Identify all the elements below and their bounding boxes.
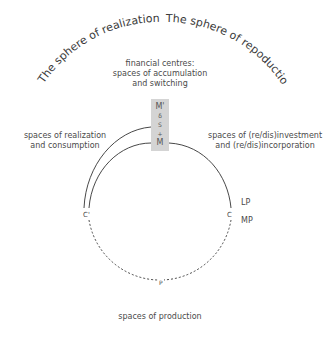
circuit-diagram: The sphere of realization The sphere of … xyxy=(0,0,333,347)
plus-label: + xyxy=(151,130,169,137)
financial-centres-line2: spaces of accumulation xyxy=(100,69,220,79)
c-node: C xyxy=(227,210,232,220)
money-capital-box: M' δ S + M xyxy=(151,99,169,151)
financial-centres-label: financial centres: spaces of accumulatio… xyxy=(100,59,220,89)
lp-label: LP xyxy=(241,198,250,208)
inner-realization-arc xyxy=(89,143,151,208)
s-label: S xyxy=(151,121,169,128)
m-label: M xyxy=(151,138,169,147)
investment-line1: spaces of (re/dis)investment xyxy=(200,131,330,141)
c-prime-node: C' xyxy=(83,210,90,220)
realization-line1: spaces of realization xyxy=(10,131,120,141)
production-label: spaces of production xyxy=(100,312,220,322)
p-node: P xyxy=(158,278,164,288)
mp-label: MP xyxy=(241,216,253,226)
financial-centres-line3: and switching xyxy=(100,79,220,89)
financial-centres-line1: financial centres: xyxy=(100,59,220,69)
investment-incorporation-label: spaces of (re/dis)investment and (re/dis… xyxy=(200,131,330,151)
delta-label: δ xyxy=(151,112,169,119)
m-prime-label: M' xyxy=(151,102,169,111)
realization-line2: and consumption xyxy=(10,141,120,151)
realization-consumption-label: spaces of realization and consumption xyxy=(10,131,120,151)
production-dotted-arc xyxy=(89,220,231,280)
investment-line2: and (re/dis)incorporation xyxy=(200,141,330,151)
investment-arc xyxy=(169,143,231,208)
